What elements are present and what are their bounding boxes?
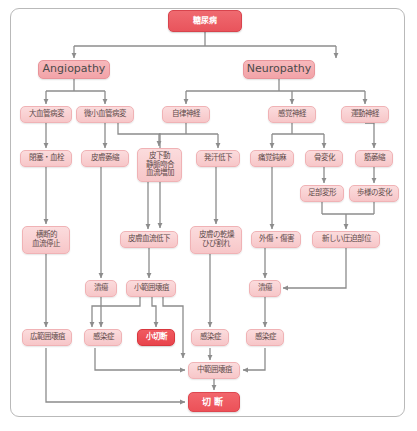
node-drycrack[interactable]: 皮膚の乾燥 ひび割れ: [190, 226, 242, 254]
node-painloss[interactable]: 痛覚鈍麻: [250, 150, 294, 167]
node-muscleatr[interactable]: 筋萎縮: [355, 150, 393, 167]
node-trauma[interactable]: 外傷・傷害: [251, 231, 301, 248]
node-amputation[interactable]: 切断: [188, 392, 240, 412]
node-neuropathy[interactable]: Neuropathy: [243, 60, 315, 79]
node-ulcer1[interactable]: 潰瘍: [85, 280, 117, 297]
node-midgang[interactable]: 中範囲壊疽: [188, 362, 240, 379]
node-infect3[interactable]: 感染症: [246, 329, 284, 346]
node-infect2[interactable]: 感染症: [191, 329, 229, 346]
node-avshunt[interactable]: 皮下動 静脈吻合 血流増加: [137, 148, 182, 182]
node-sweating[interactable]: 発汗低下: [196, 150, 240, 167]
node-smallgang[interactable]: 小範囲壊疽: [126, 280, 176, 297]
node-gaitchange[interactable]: 歩様の変化: [349, 185, 399, 202]
node-minoramp[interactable]: 小切断: [137, 329, 175, 346]
node-ulcer2[interactable]: 潰瘍: [249, 280, 281, 297]
node-newpress[interactable]: 新しい圧迫部位: [312, 231, 380, 248]
diagram-canvas: 糖尿病AngiopathyNeuropathy大血管病変微小血管病変自律神経感覚…: [0, 0, 417, 431]
node-footdeform[interactable]: 足部変形: [300, 185, 344, 202]
node-motor[interactable]: 運動神経: [341, 106, 389, 123]
node-skinflow[interactable]: 皮膚血流低下: [120, 231, 178, 248]
node-sensory[interactable]: 感覚神経: [268, 106, 316, 123]
node-micro[interactable]: 微小血管病変: [76, 106, 134, 123]
node-root[interactable]: 糖尿病: [168, 10, 242, 32]
node-angiopathy[interactable]: Angiopathy: [38, 60, 110, 79]
node-occlusion[interactable]: 閉塞・血栓: [20, 150, 72, 167]
node-flowstop[interactable]: 横断的 血流停止: [22, 226, 70, 254]
node-bonechange[interactable]: 骨変化: [305, 150, 343, 167]
node-autonomic[interactable]: 自律神経: [162, 106, 210, 123]
node-macro[interactable]: 大血管病変: [20, 106, 72, 123]
node-skinatrophy[interactable]: 皮膚萎縮: [81, 150, 129, 167]
node-infect1[interactable]: 感染症: [84, 329, 122, 346]
node-widegang[interactable]: 広範囲壊疽: [22, 329, 72, 346]
